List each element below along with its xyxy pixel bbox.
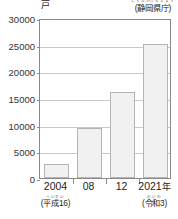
- era-2021-text: (令和3): [142, 200, 167, 208]
- era-2021: れいわ(令和3): [142, 196, 167, 208]
- bar-2021: [143, 44, 168, 178]
- x-axis-label-12: 12: [116, 181, 128, 192]
- bar-series: [40, 20, 170, 178]
- bar-08: [77, 128, 102, 178]
- chart-source: しずおかけんちょう (静岡県庁): [131, 0, 175, 13]
- y-axis-label-0: 0: [30, 175, 35, 185]
- era-2004: へいせい(平成16): [41, 196, 70, 208]
- y-axis-unit-label: 戸: [41, 1, 50, 10]
- plot-area: 050001000015000200002500030000: [39, 19, 171, 179]
- y-axis-label-15000: 15000: [9, 95, 35, 105]
- chart-source-text: (静岡県庁): [131, 4, 175, 12]
- bar-chart: しずおかけんちょう (静岡県庁) 戸 050001000015000200002…: [0, 0, 178, 219]
- x-axis-label-2004: 2004: [44, 181, 67, 192]
- bar-12: [110, 92, 135, 178]
- y-axis-label-10000: 10000: [9, 122, 35, 132]
- bar-2004: [44, 164, 69, 178]
- y-axis-label-25000: 25000: [9, 42, 35, 52]
- x-axis-label-2021: 2021年: [138, 181, 170, 192]
- y-axis-label-20000: 20000: [9, 69, 35, 79]
- era-2004-text: (平成16): [41, 200, 70, 208]
- x-axis-labels: 200408122021年: [39, 181, 171, 195]
- y-axis-label-30000: 30000: [9, 15, 35, 25]
- y-axis-label-5000: 5000: [14, 149, 35, 159]
- x-axis-label-08: 08: [83, 181, 95, 192]
- x-axis-label-suffix: 年: [162, 182, 171, 192]
